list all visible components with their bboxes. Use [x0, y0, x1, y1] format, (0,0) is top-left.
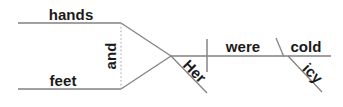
label-verb-were: were: [225, 38, 261, 55]
label-subject-feet: feet: [49, 72, 76, 89]
label-conjunction-and: and: [102, 43, 119, 70]
sentence-diagram-svg: hands feet and Her were cold icy: [0, 0, 343, 107]
sentence-diagram-canvas: hands feet and Her were cold icy: [0, 0, 343, 107]
label-subject-hands: hands: [49, 6, 94, 23]
label-predicate-adjective-cold: cold: [290, 38, 321, 55]
